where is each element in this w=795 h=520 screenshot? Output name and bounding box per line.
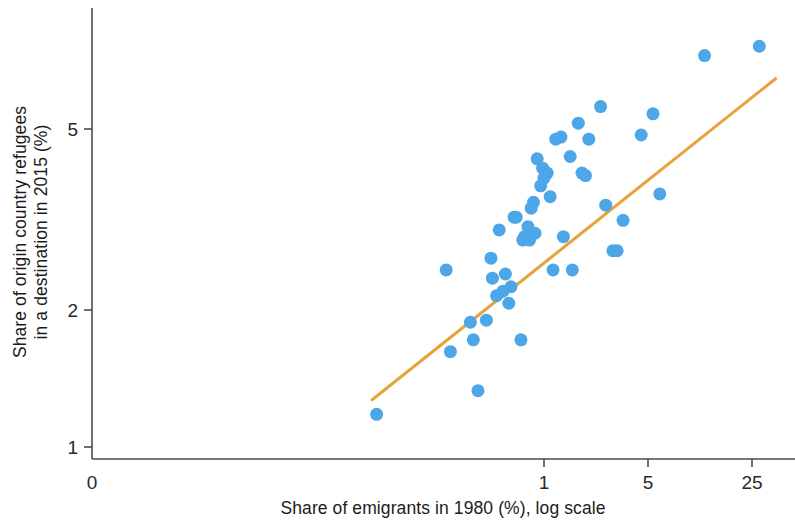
data-point [635, 129, 648, 142]
scatter-plot-figure: 12501525Share of emigrants in 1980 (%), … [0, 0, 795, 520]
data-point [566, 263, 579, 276]
y-axis-title-line2: in a destination in 2015 (%) [31, 125, 51, 340]
data-point [504, 280, 517, 293]
data-point [547, 263, 560, 276]
data-point [514, 333, 527, 346]
data-point [502, 297, 515, 310]
data-point [564, 150, 577, 163]
data-point [617, 214, 630, 227]
data-point [572, 117, 585, 130]
x-tick-label: 25 [741, 472, 762, 493]
y-tick-label: 2 [67, 300, 78, 321]
data-point [484, 252, 497, 265]
data-point [698, 49, 711, 62]
x-tick-label: 5 [643, 472, 654, 493]
data-point [527, 196, 540, 209]
data-point [510, 211, 523, 224]
data-point [582, 133, 595, 146]
data-point [480, 314, 493, 327]
y-tick-label: 5 [67, 119, 78, 140]
data-point [471, 384, 484, 397]
data-point [557, 230, 570, 243]
data-point [599, 199, 612, 212]
data-point [544, 190, 557, 203]
y-axis-title: Share of origin country refugees [10, 106, 30, 358]
data-point [370, 408, 383, 421]
data-point [554, 131, 567, 144]
x-axis-title: Share of emigrants in 1980 (%), log scal… [280, 498, 605, 518]
data-point [541, 167, 554, 180]
data-point [493, 223, 506, 236]
data-point [440, 263, 453, 276]
data-point [467, 333, 480, 346]
data-point [486, 272, 499, 285]
data-point [753, 40, 766, 53]
y-tick-label: 1 [67, 437, 78, 458]
data-point [646, 107, 659, 120]
data-point [464, 316, 477, 329]
data-point [653, 187, 666, 200]
data-point [594, 100, 607, 113]
data-point [529, 227, 542, 240]
data-point [579, 169, 592, 182]
data-point [444, 345, 457, 358]
data-point [499, 268, 512, 281]
data-point [611, 244, 624, 257]
x-tick-label: 1 [539, 472, 550, 493]
x-tick-label: 0 [87, 472, 98, 493]
